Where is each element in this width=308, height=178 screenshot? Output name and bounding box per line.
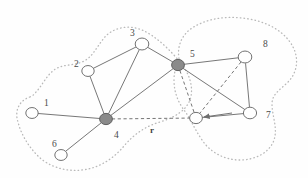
dashed-edge-8-r <box>200 62 241 113</box>
edge-1-4 <box>38 113 100 118</box>
node-label-7: 7 <box>266 111 271 121</box>
vector-r-label: r <box>150 126 154 135</box>
node-label-5: 5 <box>190 50 195 60</box>
node-label-4: 4 <box>114 131 119 141</box>
node-label-1: 1 <box>44 99 49 109</box>
solid-edges <box>38 47 250 152</box>
node-7[interactable] <box>243 107 256 119</box>
node-2[interactable] <box>82 66 94 77</box>
node-label-2: 2 <box>74 60 79 70</box>
edge-3-4 <box>109 50 140 114</box>
dashed-edge-4-r <box>112 118 190 119</box>
node-label-8: 8 <box>263 40 268 50</box>
node-4[interactable] <box>100 113 113 124</box>
edge-2-4 <box>90 76 104 113</box>
node-label-3: 3 <box>130 29 135 39</box>
node-label-6: 6 <box>52 140 57 150</box>
node-1[interactable] <box>26 108 38 119</box>
node-6[interactable] <box>55 150 67 161</box>
graph-figure: 12345678 r <box>0 0 308 178</box>
cluster-outlines <box>17 17 297 170</box>
cluster-outline-left-cluster <box>17 27 192 170</box>
edge-6-4 <box>65 123 101 152</box>
graph-canvas <box>0 0 308 178</box>
edge-5-7 <box>183 68 245 109</box>
node-5[interactable] <box>172 59 185 70</box>
edge-2-3 <box>93 47 136 69</box>
graph-nodes <box>26 38 257 160</box>
node-8[interactable] <box>238 51 252 63</box>
edge-4-5 <box>111 69 174 116</box>
node-3[interactable] <box>135 38 149 50</box>
edge-8-7 <box>246 63 250 107</box>
node-r[interactable] <box>190 112 203 123</box>
cluster-outline-right-cluster <box>174 17 297 160</box>
